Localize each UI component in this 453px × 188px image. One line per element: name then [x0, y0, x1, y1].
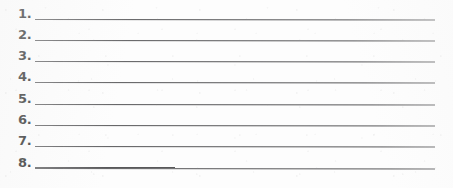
- item-number-6: 6.: [18, 113, 32, 127]
- list-item: 8.: [0, 149, 453, 170]
- item-number-3: 3.: [18, 49, 32, 63]
- list-item: 5.: [0, 85, 453, 106]
- answer-line-8[interactable]: [35, 168, 435, 169]
- answer-line-4[interactable]: [35, 82, 435, 83]
- list-item: 3.: [0, 42, 453, 63]
- list-item: 1.: [0, 0, 453, 21]
- list-item: 4.: [0, 63, 453, 84]
- answer-line-7[interactable]: [35, 146, 435, 147]
- item-number-7: 7.: [18, 134, 32, 148]
- item-number-8: 8.: [18, 156, 32, 170]
- list-item: 7.: [0, 127, 453, 148]
- item-number-5: 5.: [18, 92, 32, 106]
- answer-line-8-scan-step: [35, 167, 175, 168]
- item-number-1: 1.: [18, 7, 32, 21]
- scanned-page: 1. 2. 3. 4. 5. 6. 7. 8.: [0, 0, 453, 188]
- list-item: 2.: [0, 21, 453, 42]
- item-number-4: 4.: [18, 70, 32, 84]
- list-item: 6.: [0, 106, 453, 127]
- item-number-2: 2.: [18, 28, 32, 42]
- numbered-answer-list: 1. 2. 3. 4. 5. 6. 7. 8.: [0, 0, 453, 188]
